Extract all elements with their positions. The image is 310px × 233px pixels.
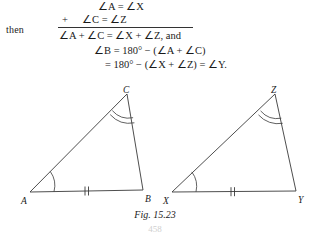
figure-caption: Fig. 15.23 xyxy=(0,209,310,220)
right-triangle xyxy=(172,94,296,196)
left-triangle-outline xyxy=(30,94,143,192)
page-folio-number: 458 xyxy=(0,224,310,233)
vertex-label-z: Z xyxy=(271,85,276,95)
right-triangle-outline xyxy=(172,94,296,192)
plus-operator: + xyxy=(62,15,68,26)
vertex-label-a: A xyxy=(21,196,27,206)
sum-rule-divider xyxy=(58,27,193,28)
equation-line-5: = 180° − (∠X + ∠Z) = ∠Y. xyxy=(105,60,227,71)
left-triangle xyxy=(30,94,143,196)
vertex-label-x: X xyxy=(163,196,169,206)
vertex-label-b: B xyxy=(145,194,151,204)
equation-line-1: ∠A = ∠X xyxy=(98,2,144,13)
left-angle-arc-a xyxy=(50,172,54,192)
equation-line-2: ∠C = ∠Z xyxy=(82,15,127,26)
then-label: then xyxy=(6,24,24,35)
vertex-label-c: C xyxy=(123,85,129,95)
right-angle-arc-z-inner xyxy=(261,111,282,119)
right-angle-arc-z-outer xyxy=(259,115,283,124)
vertex-label-y: Y xyxy=(298,195,303,205)
figure-page: then ∠A = ∠X + ∠C = ∠Z ∠A + ∠C = ∠X + ∠Z… xyxy=(0,0,310,233)
figure-diagram: A B C X Y Z xyxy=(0,74,310,210)
proof-block: then ∠A = ∠X + ∠C = ∠Z ∠A + ∠C = ∠X + ∠Z… xyxy=(0,0,310,74)
right-angle-arc-x xyxy=(192,172,197,192)
equation-line-3: ∠A + ∠C = ∠X + ∠Z, and xyxy=(59,31,181,42)
triangles-svg xyxy=(0,74,310,210)
equation-line-4: ∠B = 180° − (∠A + ∠C) xyxy=(94,46,205,57)
